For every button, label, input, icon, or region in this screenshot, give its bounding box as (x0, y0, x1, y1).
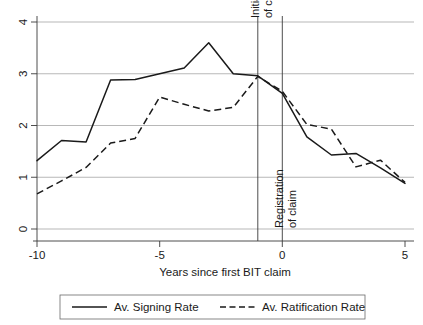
x-tick-label-0: 0 (279, 249, 285, 261)
initiation-of-claim-label-line1: Initiation (249, 0, 261, 18)
registration-of-claim-label-line1: Registration (273, 169, 285, 228)
chart-figure: 4 3 2 1 0 -10 -5 0 5 Years since first B… (0, 0, 423, 325)
legend-label-av-signing-rate: Av. Signing Rate (114, 301, 199, 313)
line-chart: 4 3 2 1 0 -10 -5 0 5 Years since first B… (0, 0, 423, 325)
y-tick-label-1: 1 (17, 174, 29, 180)
initiation-of-claim-label-line2: of claim (262, 0, 274, 18)
y-tick-label-3: 3 (17, 71, 29, 77)
registration-of-claim-label-line2: of claim (286, 190, 298, 228)
x-tick-label--5: -5 (155, 249, 165, 261)
x-tick-label--10: -10 (29, 249, 46, 261)
y-tick-label-0: 0 (17, 226, 29, 232)
y-tick-label-4: 4 (17, 18, 29, 25)
x-tick-label-5: 5 (402, 249, 408, 261)
x-axis-title: Years since first BIT claim (159, 266, 291, 278)
y-tick-label-2: 2 (17, 122, 29, 128)
legend-label-av-ratification-rate: Av. Ratification Rate (262, 301, 365, 313)
